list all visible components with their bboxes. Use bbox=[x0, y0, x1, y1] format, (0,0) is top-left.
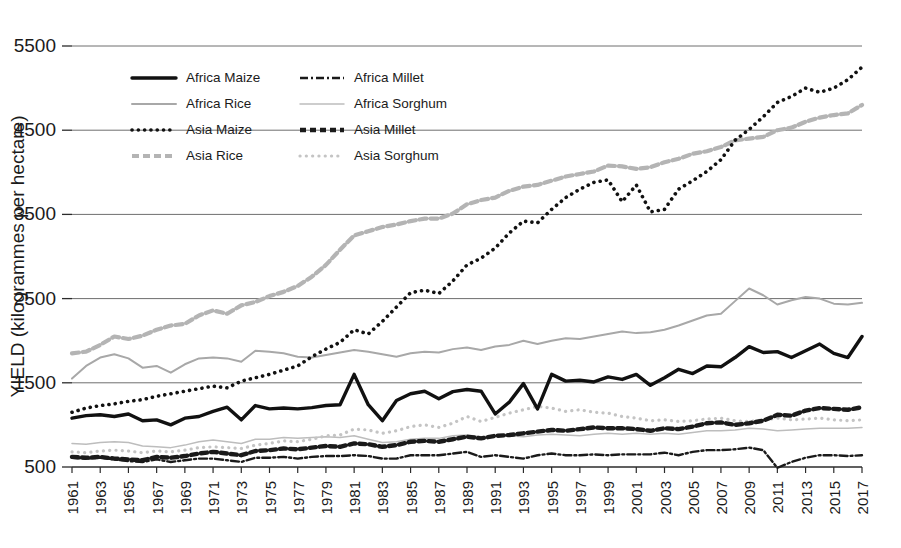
x-tick-label-1995: 1995 bbox=[544, 481, 561, 514]
x-tick-label-1989: 1989 bbox=[459, 481, 476, 514]
y-tick-label-500: 500 bbox=[24, 456, 56, 477]
chart-canvas: 50015002500350045005500YIELD (kilogramme… bbox=[0, 0, 901, 548]
x-tick-label-2011: 2011 bbox=[769, 481, 786, 513]
x-tick-label-2009: 2009 bbox=[741, 481, 758, 514]
series-line-africa-rice bbox=[72, 288, 862, 378]
x-tick-label-2007: 2007 bbox=[713, 481, 730, 514]
legend-item-asia-rice[interactable]: Asia Rice bbox=[132, 148, 243, 163]
x-tick-label-1985: 1985 bbox=[403, 481, 420, 514]
x-tick-label-2001: 2001 bbox=[628, 481, 645, 514]
y-axis-title: YIELD (kilogrammes per hectare) bbox=[7, 116, 28, 398]
x-tick-label-2005: 2005 bbox=[685, 481, 702, 514]
legend-item-africa-sorghum[interactable]: Africa Sorghum bbox=[300, 96, 447, 111]
x-tick-label-1973: 1973 bbox=[233, 481, 250, 514]
x-tick-label-1965: 1965 bbox=[120, 481, 137, 514]
x-tick-label-1997: 1997 bbox=[572, 481, 589, 514]
series-line-asia-maize bbox=[72, 67, 862, 412]
x-tick-label-1969: 1969 bbox=[177, 481, 194, 514]
legend-item-africa-rice-label: Africa Rice bbox=[186, 96, 251, 111]
x-tick-label-1963: 1963 bbox=[92, 481, 109, 514]
legend-item-africa-millet-label: Africa Millet bbox=[354, 70, 424, 85]
legend-item-asia-millet[interactable]: Asia Millet bbox=[300, 122, 416, 137]
series-line-asia-rice bbox=[72, 105, 862, 353]
legend-item-asia-sorghum[interactable]: Asia Sorghum bbox=[300, 148, 439, 163]
legend-item-africa-maize[interactable]: Africa Maize bbox=[132, 70, 260, 85]
legend-item-asia-maize[interactable]: Asia Maize bbox=[132, 122, 252, 137]
x-tick-label-1987: 1987 bbox=[431, 481, 448, 514]
x-tick-label-1971: 1971 bbox=[205, 481, 222, 514]
x-tick-label-1975: 1975 bbox=[262, 481, 279, 514]
x-tick-label-2017: 2017 bbox=[854, 481, 871, 514]
x-tick-label-1991: 1991 bbox=[487, 481, 504, 514]
legend-item-asia-rice-label: Asia Rice bbox=[186, 148, 243, 163]
series-line-africa-millet bbox=[72, 448, 862, 468]
y-tick-label-5500: 5500 bbox=[14, 35, 56, 56]
legend-item-africa-sorghum-label: Africa Sorghum bbox=[354, 96, 447, 111]
x-tick-label-2015: 2015 bbox=[826, 481, 843, 514]
legend-item-africa-rice[interactable]: Africa Rice bbox=[132, 96, 251, 111]
legend-item-asia-millet-label: Asia Millet bbox=[354, 122, 416, 137]
x-tick-label-1993: 1993 bbox=[515, 481, 532, 514]
x-tick-label-2013: 2013 bbox=[798, 481, 815, 514]
x-tick-label-1961: 1961 bbox=[64, 481, 81, 514]
legend-item-asia-maize-label: Asia Maize bbox=[186, 122, 252, 137]
x-tick-label-1977: 1977 bbox=[290, 481, 307, 514]
yield-line-chart: 50015002500350045005500YIELD (kilogramme… bbox=[0, 0, 901, 548]
x-tick-label-1967: 1967 bbox=[149, 481, 166, 514]
x-tick-label-1999: 1999 bbox=[600, 481, 617, 514]
x-tick-label-1983: 1983 bbox=[374, 481, 391, 514]
x-tick-label-2003: 2003 bbox=[657, 481, 674, 514]
legend-item-africa-millet[interactable]: Africa Millet bbox=[300, 70, 424, 85]
series-line-africa-maize bbox=[72, 336, 862, 424]
x-tick-label-1979: 1979 bbox=[318, 481, 335, 514]
x-tick-label-1981: 1981 bbox=[346, 481, 363, 514]
legend-item-africa-maize-label: Africa Maize bbox=[186, 70, 260, 85]
legend-item-asia-sorghum-label: Asia Sorghum bbox=[354, 148, 439, 163]
